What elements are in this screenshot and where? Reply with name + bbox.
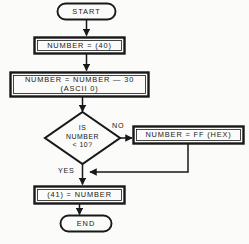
node-decision-shape <box>45 112 120 164</box>
node-assign-number-shape <box>35 38 125 54</box>
node-store-shape <box>35 187 125 204</box>
node-start-shape <box>58 4 116 20</box>
node-subtract-shape <box>11 73 149 97</box>
edge-label-yes: YES <box>58 167 74 175</box>
node-set-ff-shape <box>134 127 244 144</box>
flowchart-shapes <box>0 0 249 244</box>
flowchart-canvas: START NUMBER = (40) NUMBER = NUMBER — 30… <box>0 0 249 244</box>
edge-label-no: NO <box>112 122 124 130</box>
node-end-shape <box>61 216 112 232</box>
